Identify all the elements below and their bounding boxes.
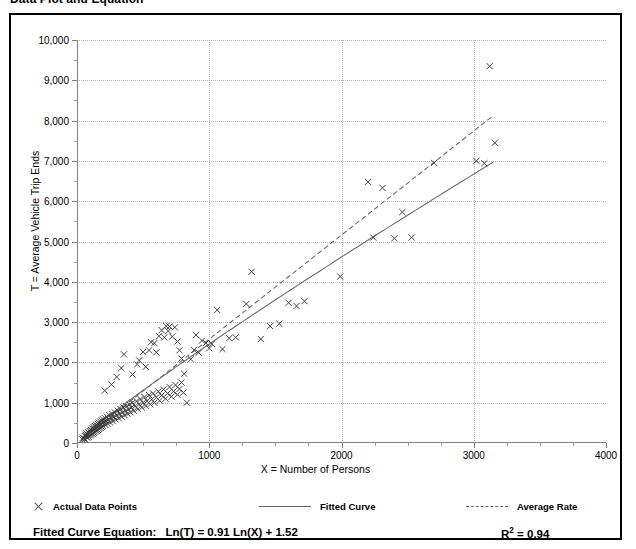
data-point-marker: [121, 351, 127, 357]
equation-row: Fitted Curve Equation: Ln(T) = 0.91 Ln(X…: [11, 523, 620, 549]
data-point-marker: [301, 298, 307, 304]
data-point-marker: [108, 381, 114, 387]
data-point-marker: [258, 336, 264, 342]
y-tick-label: 1,000: [44, 397, 69, 408]
equation-label: Fitted Curve Equation:: [33, 526, 156, 538]
data-point-marker: [178, 379, 184, 385]
data-point-marker: [163, 396, 169, 402]
y-tick-label: 9,000: [44, 75, 69, 86]
data-point-marker: [365, 179, 371, 185]
x-tick-major: [342, 443, 343, 448]
data-point-marker: [193, 332, 199, 338]
data-point-marker: [391, 235, 397, 241]
legend: Actual Data Points Fitted Curve Average …: [11, 493, 620, 519]
legend-item-average-rate: Average Rate: [466, 493, 577, 519]
legend-label: Actual Data Points: [53, 501, 137, 512]
data-point-marker: [174, 338, 180, 344]
data-point-marker: [492, 140, 498, 146]
data-point-marker: [243, 301, 249, 307]
data-point-marker: [155, 388, 161, 394]
legend-item-fitted-curve: Fitted Curve: [259, 493, 375, 519]
data-point-marker: [473, 158, 479, 164]
legend-label: Average Rate: [517, 501, 577, 512]
data-point-marker: [174, 392, 180, 398]
data-point-marker: [170, 388, 176, 394]
data-point-marker: [293, 303, 299, 309]
fitted-curve-equation: Fitted Curve Equation: Ln(T) = 0.91 Ln(X…: [33, 526, 298, 538]
data-point-marker: [159, 392, 165, 398]
page-title: Data Plot and Equation: [10, 0, 144, 6]
data-point-marker: [161, 334, 167, 340]
y-tick-label: 0: [63, 438, 69, 449]
x-tick-label: 3000: [463, 450, 485, 461]
x-tick-minor: [441, 443, 442, 446]
data-point-marker: [114, 374, 120, 380]
data-point-marker: [219, 346, 225, 352]
data-point-marker: [165, 328, 171, 334]
data-point-marker: [214, 307, 220, 313]
data-point-marker: [408, 234, 414, 240]
data-point-marker: [102, 388, 108, 394]
x-tick-minor: [242, 443, 243, 446]
y-tick-label: 2,000: [44, 357, 69, 368]
x-tick-label: 1000: [198, 450, 220, 461]
y-tick-label: 7,000: [44, 155, 69, 166]
data-point-marker: [276, 321, 282, 327]
x-tick-minor: [507, 443, 508, 446]
x-tick-minor: [176, 443, 177, 446]
plot-svg: [77, 40, 606, 443]
y-tick-label: 6,000: [44, 196, 69, 207]
data-point-marker: [181, 371, 187, 377]
y-axis-title: T = Average Vehicle Trip Ends: [29, 121, 41, 321]
data-point-marker: [286, 300, 292, 306]
data-point-marker: [118, 365, 124, 371]
figure-panel: T = Average Vehicle Trip Ends 01,0002,00…: [9, 13, 622, 540]
data-point-marker: [337, 273, 343, 279]
data-point-marker: [248, 269, 254, 275]
axes-area: 01,0002,0003,0004,0005,0006,0007,0008,00…: [77, 40, 606, 443]
actual-data-points-series: [79, 63, 498, 442]
data-point-marker: [399, 209, 405, 215]
x-axis-title: X = Number of Persons: [11, 463, 620, 475]
x-tick-minor: [110, 443, 111, 446]
fitted-curve-line: [85, 162, 494, 435]
solid-line-icon: [259, 506, 311, 507]
data-point-marker: [487, 63, 493, 69]
data-point-marker: [481, 160, 487, 166]
y-tick-label: 3,000: [44, 317, 69, 328]
x-tick-minor: [143, 443, 144, 446]
cross-marker-icon: [33, 501, 44, 512]
x-tick-minor: [540, 443, 541, 446]
data-point-marker: [267, 323, 273, 329]
x-tick-major: [77, 443, 78, 448]
x-tick-minor: [275, 443, 276, 446]
x-tick-major: [209, 443, 210, 448]
data-point-marker: [140, 349, 146, 355]
data-point-marker: [233, 334, 239, 340]
x-tick-minor: [573, 443, 574, 446]
data-point-marker: [153, 349, 159, 355]
data-point-marker: [184, 400, 190, 406]
dashed-line-icon: [466, 506, 508, 507]
x-tick-major: [606, 443, 607, 448]
x-tick-minor: [408, 443, 409, 446]
equation-value: Ln(T) = 0.91 Ln(X) + 1.52: [166, 526, 298, 538]
data-point-marker: [143, 364, 149, 370]
data-point-marker: [379, 185, 385, 191]
data-point-marker: [176, 347, 182, 353]
x-tick-label: 2000: [330, 450, 352, 461]
data-point-marker: [370, 234, 376, 240]
x-tick-minor: [308, 443, 309, 446]
data-point-marker: [168, 394, 174, 400]
plot-region: T = Average Vehicle Trip Ends 01,0002,00…: [11, 15, 620, 485]
data-point-marker: [146, 347, 152, 353]
legend-label: Fitted Curve: [320, 501, 375, 512]
x-tick-label: 0: [74, 450, 80, 461]
legend-item-actual-data-points: Actual Data Points: [33, 493, 137, 519]
r-squared-number: = 0.94: [514, 528, 550, 540]
y-tick-label: 4,000: [44, 276, 69, 287]
data-point-marker: [226, 335, 232, 341]
r-squared-value: R2 = 0.94: [501, 526, 549, 540]
x-tick-minor: [375, 443, 376, 446]
x-tick-label: 4000: [595, 450, 617, 461]
